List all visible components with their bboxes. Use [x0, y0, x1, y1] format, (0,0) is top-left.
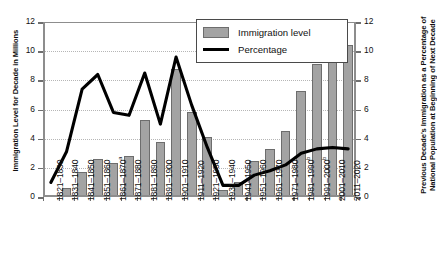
x-label-1971–1980: 1971–1980: [290, 160, 300, 201]
right-tick-label-6: 6: [364, 104, 380, 114]
tickmark-left-2: [38, 168, 43, 170]
right-tick-label-4: 4: [364, 133, 380, 143]
tickmark-right-8: [356, 80, 361, 82]
x-label-1881–1890: 1881–1890: [149, 160, 159, 201]
x-label-1871–1880: 1871–1880: [133, 160, 143, 201]
tickmark-left-4: [38, 139, 43, 141]
x-label-footnote: b: [305, 157, 311, 160]
right-tick-label-0: 0: [364, 191, 380, 201]
tickmark-right-4: [356, 139, 361, 141]
right-axis-title: Previous Decade's Immigration as a Perce…: [419, 15, 437, 195]
x-label-1841–1850: 1841–1850: [86, 160, 96, 201]
legend-item-immigration-level: Immigration level: [203, 24, 341, 41]
x-label-1901–1910: 1901–1910: [180, 160, 190, 201]
left-tick-label-12: 12: [19, 16, 35, 26]
line-swatch-icon: [203, 48, 229, 51]
left-tick-label-8: 8: [19, 74, 35, 84]
x-label-2011–2020: 2011–2020: [352, 160, 362, 201]
tickmark-right-6: [356, 110, 361, 112]
legend-label-percentage: Percentage: [238, 44, 287, 55]
right-tick-label-10: 10: [364, 45, 380, 55]
left-tick-label-10: 10: [19, 45, 35, 55]
x-label-1951–1960: 1951–1960: [258, 160, 268, 201]
bar-swatch-icon: [203, 27, 229, 38]
axis-left: [43, 22, 45, 197]
tickmark-left-12: [38, 22, 43, 24]
tickmark-left-6: [38, 110, 43, 112]
legend-label-immigration-level: Immigration level: [238, 27, 311, 38]
left-tick-label-6: 6: [19, 104, 35, 114]
xtickmark: [43, 197, 44, 201]
x-label-1821–1830: 1821–1830: [55, 160, 65, 201]
left-tick-label-4: 4: [19, 133, 35, 143]
x-label-1891–1900: 1891–1900: [164, 160, 174, 201]
x-label-footnote: b: [321, 157, 327, 160]
right-tick-label-2: 2: [364, 162, 380, 172]
right-tick-label-12: 12: [364, 16, 380, 26]
x-label-1861–1870: 1861–1870a: [117, 157, 128, 201]
right-tick-label-8: 8: [364, 74, 380, 84]
x-label-1981–1990: 1981–1990b: [305, 157, 316, 201]
x-label-1941–1950: 1941–1950: [243, 160, 253, 201]
tickmark-right-12: [356, 22, 361, 24]
left-tick-label-2: 2: [19, 162, 35, 172]
x-label-1961–1970: 1961–1970: [274, 160, 284, 201]
x-label-footnote: a: [117, 157, 123, 160]
x-label-1921–1930: 1921–1930: [211, 160, 221, 201]
x-label-1851–1860: 1851–1860: [102, 160, 112, 201]
x-label-1931–1940: 1931–1940: [227, 160, 237, 201]
x-label-1911–1920: 1911–1920: [196, 160, 206, 201]
tickmark-right-10: [356, 51, 361, 53]
left-tick-label-0: 0: [19, 191, 35, 201]
legend-item-percentage: Percentage: [203, 41, 341, 58]
tickmark-left-8: [38, 80, 43, 82]
x-label-2001–2010: 2001–2010: [337, 160, 347, 201]
chart-legend: Immigration level Percentage: [196, 19, 348, 63]
tickmark-left-10: [38, 51, 43, 53]
x-label-1831–1840: 1831–1840: [70, 160, 80, 201]
x-label-1991–2000: 1991–2000b: [321, 157, 332, 201]
